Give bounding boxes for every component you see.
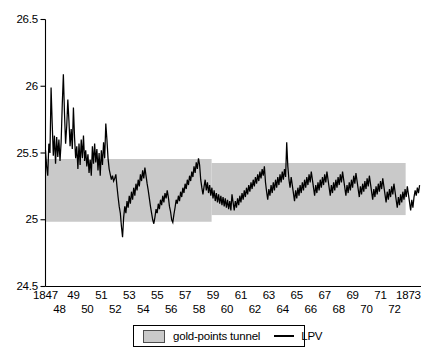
y-tick-label: 26.5 (2, 13, 38, 25)
legend-label-tunnel: gold-points tunnel (173, 330, 260, 342)
x-tick-label-lower: 50 (77, 303, 97, 315)
x-tick-label-lower: 58 (189, 303, 209, 315)
x-tick-label-upper: 57 (175, 289, 195, 301)
x-tick-label-upper: 69 (343, 289, 363, 301)
x-tick-label-lower: 62 (245, 303, 265, 315)
y-tick-label: 25 (2, 213, 38, 225)
x-tick-label-upper: 51 (91, 289, 111, 301)
legend-entry-lpv: LPV (260, 326, 322, 346)
legend-band-swatch-icon (143, 330, 165, 343)
x-tick-label-lower: 52 (105, 303, 125, 315)
y-tick-label: 26 (2, 80, 38, 92)
y-tick-label: 25.5 (2, 147, 38, 159)
chart-legend: gold-points tunnel LPV (133, 325, 305, 347)
legend-line-swatch-icon (274, 335, 294, 337)
x-tick-label-lower: 54 (133, 303, 153, 315)
x-tick-label-upper: 65 (287, 289, 307, 301)
x-tick-label-upper: 55 (147, 289, 167, 301)
x-tick-label-upper: 63 (259, 289, 279, 301)
x-tick-label-upper: 67 (315, 289, 335, 301)
x-tick-label-upper: 71 (371, 289, 391, 301)
x-tick-label-lower: 66 (301, 303, 321, 315)
x-tick-label-lower: 72 (384, 303, 404, 315)
x-tick-label-upper: 53 (119, 289, 139, 301)
chart-figure: 26.52625.52524.5 18474951535557596163656… (0, 0, 430, 356)
x-tick-label-lower: 68 (329, 303, 349, 315)
x-tick-label-lower: 48 (49, 303, 69, 315)
x-tick-label-upper: 59 (203, 289, 223, 301)
x-tick-label-upper: 1847 (30, 289, 62, 301)
legend-label-lpv: LPV (301, 330, 322, 342)
x-tick-label-upper: 1873 (392, 289, 424, 301)
x-tick-label-lower: 56 (161, 303, 181, 315)
x-tick-label-lower: 60 (217, 303, 237, 315)
x-tick-label-upper: 49 (63, 289, 83, 301)
x-tick-label-lower: 70 (357, 303, 377, 315)
legend-entry-tunnel: gold-points tunnel (134, 326, 260, 346)
x-tick-label-lower: 64 (273, 303, 293, 315)
x-tick-label-upper: 61 (231, 289, 251, 301)
